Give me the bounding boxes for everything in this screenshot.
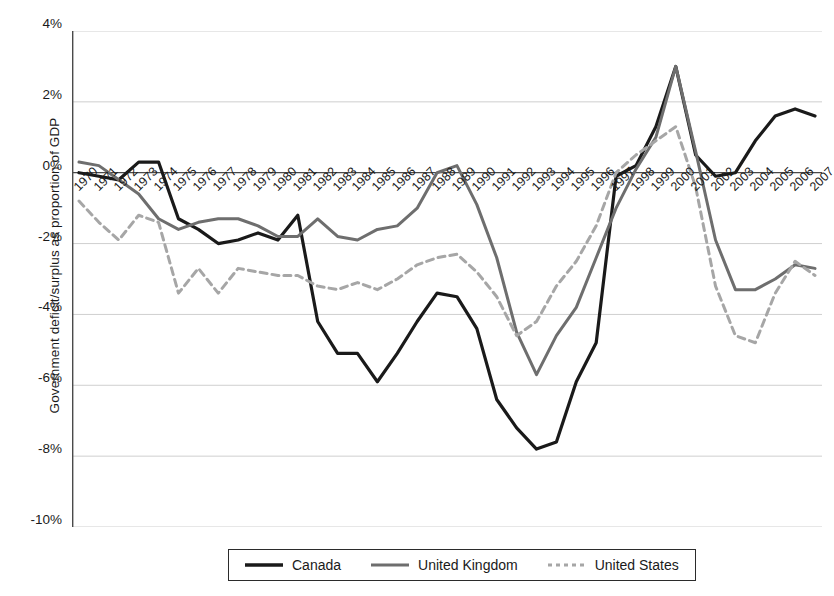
legend-label: Canada <box>292 557 341 573</box>
chart-legend: Canada United Kingdom United States <box>228 549 696 581</box>
legend-item[interactable]: United Kingdom <box>371 557 518 573</box>
legend-swatch-united-states <box>548 559 586 571</box>
legend-item[interactable]: Canada <box>245 557 341 573</box>
legend-swatch-canada <box>245 559 283 571</box>
legend-label: United States <box>595 557 679 573</box>
chart-figure: Government deficit/surplus as proportion… <box>0 0 834 596</box>
legend-label: United Kingdom <box>418 557 518 573</box>
legend-swatch-united-kingdom <box>371 559 409 571</box>
legend-item[interactable]: United States <box>548 557 679 573</box>
x-axis-tick-labels: 1970197119721973197419751976197719781979… <box>0 0 834 596</box>
